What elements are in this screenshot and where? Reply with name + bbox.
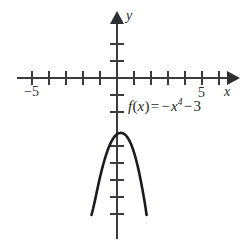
equation-equals-sign: = [150,98,161,114]
equation-leading-minus: − [160,98,171,114]
equation-label: f(x)=−x4−3 [128,99,201,114]
equation-base-variable: x [171,98,178,114]
x-axis-arrow-icon [227,71,240,85]
equation-paren-close: ) [144,98,149,114]
coordinate-plane: y x −5 5 [0,0,241,244]
equation-constant: 3 [193,98,201,114]
x-axis-label: x [223,84,231,99]
equation-minus-sign: − [183,98,194,114]
function-graph-figure: y x −5 5 f(x)=−x4−3 [0,0,241,244]
y-axis-arrow-icon [110,11,124,24]
y-axis-label: y [124,8,133,23]
x-tick-label-negative-five: −5 [24,84,39,99]
